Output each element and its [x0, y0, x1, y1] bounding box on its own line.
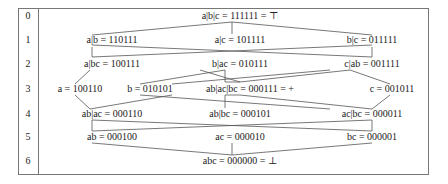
node-r1-right: b|c = 011111: [347, 34, 398, 46]
node-r1-left: a|b = 110111: [87, 34, 138, 46]
node-r5-center: ac = 000010: [215, 131, 265, 143]
node-r3-a: a = 100110: [58, 83, 103, 95]
node-bottom: abc = 000000 = ⊥: [203, 155, 278, 167]
node-r4-left: ab|ac = 000110: [82, 108, 143, 120]
node-r2-center: b|ac = 010111: [212, 58, 268, 70]
node-r4-center: ab|bc = 000101: [209, 108, 271, 120]
node-r5-left: ab = 000100: [87, 131, 137, 143]
node-r5-right: bc = 000001: [347, 131, 397, 143]
node-r1-center: a|c = 101111: [215, 34, 265, 46]
node-r2-right: c|ab = 001111: [344, 58, 399, 70]
node-r3-c: c = 001011: [370, 83, 415, 95]
node-r3-center: ab|ac|bc = 000111 = +: [206, 83, 294, 95]
node-top: a|b|c = 111111 = ⊤: [202, 10, 279, 22]
node-r4-right: ac|bc = 000011: [342, 108, 403, 120]
node-r2-left: a|bc = 100111: [84, 58, 140, 70]
node-r3-b: b = 010101: [127, 83, 173, 95]
